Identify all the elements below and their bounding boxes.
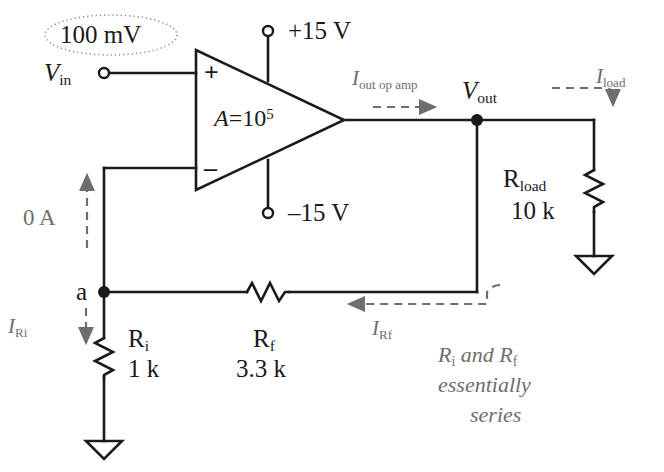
rload-subscript: load [520,177,547,194]
resistor-rload-zigzag [585,170,603,212]
rload-value: 10 k [511,198,555,223]
ri-subscript: i [145,337,149,354]
opamp-plus-label: + [204,60,219,86]
schematic-canvas [0,0,664,472]
opamp-gain-label: A=105 [214,106,274,130]
iri-subscript: Ri [15,325,27,340]
rf-value: 3.3 k [236,356,286,381]
node-a-label: a [76,279,87,304]
iload-symbol: I [596,64,603,88]
annotation-rf-subscript: f [513,354,518,369]
rload-symbol: R [503,165,520,192]
supply-negative-label: –15 V [288,200,349,225]
irf-subscript: Rf [379,327,392,342]
supply-positive-label: +15 V [288,18,351,43]
rload-name: Rload [503,166,546,194]
input-terminal-label: Vin [44,60,71,88]
rf-name: Rf [253,326,275,354]
vin-subscript: in [59,71,71,88]
zero-amp-label: 0 A [23,206,56,229]
circuit-diagram: 100 mV Vin + – A=105 +15 V –15 V Iout op… [0,0,664,472]
resistor-rf-zigzag [247,283,289,301]
gain-value: =10 [229,105,267,131]
terminal-vin [99,68,109,78]
irf-symbol: I [372,316,379,340]
terminal-supply-negative [263,208,273,218]
opamp-minus-label: – [204,155,217,181]
iout-opamp-label: Iout op amp [352,68,418,91]
ri-name: Ri [128,326,149,354]
arrow-iload [552,88,613,104]
junction-dot-vout [471,114,483,126]
vout-subscript: out [477,89,497,106]
ri-value: 1 k [128,356,159,381]
series-annotation-line1: Ri and Rf [438,344,517,368]
iload-label: Iload [596,66,625,89]
vout-symbol: V [462,77,477,104]
iri-symbol: I [8,314,15,338]
gain-exponent: 5 [266,106,273,122]
ground-symbol-rload [576,256,612,274]
rf-symbol: R [253,325,270,352]
junction-dot-node-a [98,286,110,298]
annotation-and: and R [455,342,512,367]
series-annotation-line3: series [470,404,521,426]
ground-symbol-ri [86,441,122,459]
terminal-supply-positive [263,26,273,36]
annotation-ri-symbol: R [438,342,451,367]
irf-label: IRf [372,318,392,341]
vin-symbol: V [44,59,59,86]
iout-symbol: I [352,66,359,90]
vout-label: Vout [462,78,497,106]
iri-label: IRi [8,316,27,339]
series-annotation-line2: essentially [438,374,531,396]
iout-subscript: out op amp [359,77,418,92]
source-callout-value: 100 mV [60,22,141,47]
rf-subscript: f [270,337,275,354]
ri-symbol: R [128,325,145,352]
gain-symbol: A [214,105,229,131]
resistor-ri-zigzag [95,338,113,378]
iload-subscript: load [603,75,625,90]
